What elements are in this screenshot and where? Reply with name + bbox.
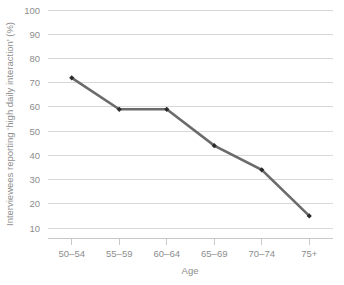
y-axis-tick-label: 50 — [29, 126, 40, 137]
x-axis-tick-marks — [72, 238, 310, 245]
line-chart: 100908070605040302010 50–5455–5960–6465–… — [0, 0, 344, 285]
gridlines-group — [48, 10, 333, 228]
y-axis-title: Interviewees reporting ‘high daily inter… — [4, 22, 15, 226]
y-axis-tick-label: 70 — [29, 77, 40, 88]
x-axis-tick-label: 60–64 — [154, 248, 180, 259]
y-axis-tick-label: 100 — [24, 5, 40, 16]
y-axis-tick-label: 40 — [29, 150, 40, 161]
chart-canvas: 100908070605040302010 50–5455–5960–6465–… — [0, 0, 344, 285]
y-axis-tick-label: 60 — [29, 101, 40, 112]
y-axis-tick-label: 90 — [29, 29, 40, 40]
y-axis-tick-labels: 100908070605040302010 — [24, 5, 40, 234]
data-series-line — [72, 78, 310, 216]
x-axis-tick-label: 55–59 — [106, 248, 132, 259]
y-axis-tick-label: 20 — [29, 198, 40, 209]
data-point-markers — [69, 75, 312, 218]
x-axis-tick-label: 50–54 — [59, 248, 85, 259]
x-axis-tick-labels: 50–5455–5960–6465–6970–7475+ — [59, 248, 318, 259]
x-axis-tick-label: 65–69 — [201, 248, 227, 259]
y-axis-tick-label: 10 — [29, 223, 40, 234]
x-axis-tick-label: 75+ — [301, 248, 318, 259]
x-axis-title: Age — [182, 265, 199, 276]
y-axis-tick-label: 30 — [29, 174, 40, 185]
x-axis-tick-label: 70–74 — [249, 248, 275, 259]
y-axis-tick-label: 80 — [29, 53, 40, 64]
